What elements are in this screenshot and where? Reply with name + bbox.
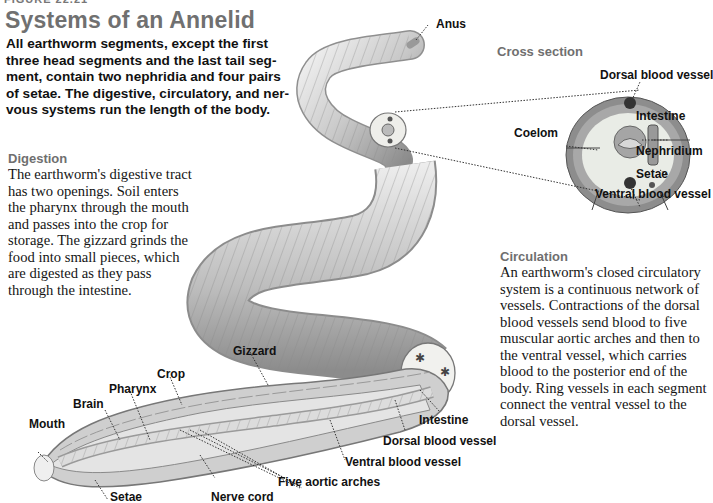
body-line: system is a continuous network of [500, 281, 710, 298]
label-cs-dorsal-blood-vessel: Dorsal blood vessel [600, 68, 713, 82]
label-ventral-blood-vessel: Ventral blood vessel [345, 455, 461, 469]
body-line: food into small pieces, which [8, 249, 198, 266]
worm-dissected-section [34, 369, 448, 487]
digestion-body: The earthworm's digestive tract has two … [8, 166, 198, 298]
figure-number: FIGURE 22.21 [4, 0, 88, 5]
figure-intro: All earthworm segments, except the first… [6, 36, 306, 119]
label-pharynx: Pharynx [109, 382, 156, 396]
label-cs-coelom: Coelom [514, 126, 558, 140]
label-crop: Crop [157, 367, 185, 381]
body-line: and passes into the crop for [8, 216, 198, 233]
circulation-heading: Circulation [500, 249, 710, 264]
body-line: storage. The gizzard grinds the [8, 232, 198, 249]
body-line: blood vessels send blood to five [500, 314, 710, 331]
body-line: are digested as they pass [8, 265, 198, 282]
body-line: dorsal vessel. [500, 413, 710, 430]
label-brain: Brain [73, 397, 104, 411]
circulation-body: An earthworm's closed circulatory system… [500, 264, 710, 429]
digestion-heading: Digestion [8, 151, 198, 166]
digestion-section: Digestion The earthworm's digestive trac… [8, 151, 198, 298]
label-five-aortic-arches: Five aortic arches [278, 475, 380, 489]
body-line: muscular aortic arches and then to [500, 330, 710, 347]
label-dorsal-blood-vessel: Dorsal blood vessel [383, 434, 496, 448]
intro-line: All earthworm segments, except the first [6, 36, 306, 53]
intro-line: three head segments and the last tail se… [6, 53, 306, 70]
body-line: through the intestine. [8, 282, 198, 299]
body-line: blood to the posterior end of the [500, 363, 710, 380]
figure-title: Systems of an Annelid [5, 7, 255, 34]
svg-text:✱: ✱ [440, 365, 450, 379]
body-line: vessels. Contractions of the dorsal [500, 297, 710, 314]
intro-line: ment, contain two nephridia and four pai… [6, 69, 306, 86]
label-cs-ventral-blood-vessel: Ventral blood vessel [595, 187, 711, 201]
body-line: An earthworm's closed circulatory [500, 264, 710, 281]
body-line: has two openings. Soil enters [8, 183, 198, 200]
body-line: The earthworm's digestive tract [8, 166, 198, 183]
label-mouth: Mouth [29, 417, 65, 431]
label-nerve-cord: Nerve cord [211, 490, 274, 503]
svg-text:✱: ✱ [415, 351, 425, 365]
intro-line: vous systems run the length of the body. [6, 102, 306, 119]
label-intestine: Intestine [419, 413, 468, 427]
label-cs-intestine: Intestine [636, 109, 685, 123]
cross-section-heading: Cross section [497, 44, 583, 59]
label-anus: Anus [436, 17, 466, 31]
label-cs-nephridium: Nephridium [636, 144, 703, 158]
worm-tail-section [311, 41, 416, 160]
worm-middle-section: ✱ ✱ [218, 165, 455, 403]
body-line: connect the ventral vessel to the [500, 396, 710, 413]
intro-line: of setae. The digestive, circulatory, an… [6, 86, 306, 103]
body-line: the pharynx through the mouth [8, 199, 198, 216]
body-line: the ventral vessel, which carries [500, 347, 710, 364]
label-setae: Setae [110, 490, 142, 503]
label-cs-setae: Setae [636, 167, 668, 181]
circulation-section: Circulation An earthworm's closed circul… [500, 249, 710, 429]
label-gizzard: Gizzard [233, 344, 276, 358]
body-line: body. Ring vessels in each segment [500, 380, 710, 397]
